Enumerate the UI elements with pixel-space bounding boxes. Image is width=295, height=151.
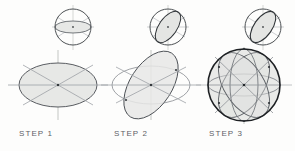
step-2-small-sphere [147, 5, 189, 50]
main-center-point-icon [150, 84, 152, 86]
sphere-node-upper-right-icon [268, 66, 270, 68]
step-3-label: STEP 3 [209, 129, 243, 138]
sphere-node-lower-left-icon [218, 102, 220, 104]
main-tangent-point-upper-icon [175, 69, 177, 71]
small-sphere-center-point-icon [72, 26, 74, 28]
sphere-node-lower-right-icon [268, 102, 270, 104]
step-1-group [8, 5, 108, 120]
main-ellipse-center-point-icon [57, 84, 59, 86]
sphere-node-upper-left-icon [218, 66, 220, 68]
small-sphere-center-point-icon [167, 26, 169, 28]
step-1-small-sphere [52, 5, 94, 50]
step-1-label: STEP 1 [19, 129, 53, 138]
step-3-main-sphere [196, 44, 292, 126]
step-3-group [196, 5, 292, 126]
step-2-group [101, 5, 201, 128]
step-3-small-sphere [242, 5, 284, 50]
sphere-construction-diagram: STEP 1 STEP 2 STEP 3 [0, 0, 295, 151]
step-2-label: STEP 2 [114, 129, 148, 138]
step-2-main-shape [101, 42, 201, 129]
step-1-main-ellipse [8, 50, 108, 120]
small-sphere-center-point-icon [262, 26, 264, 28]
sphere-pole-top-icon [243, 48, 245, 50]
sphere-center-point-icon [243, 84, 246, 87]
sphere-pole-bottom-icon [243, 120, 245, 122]
main-tangent-point-lower-icon [125, 99, 127, 101]
